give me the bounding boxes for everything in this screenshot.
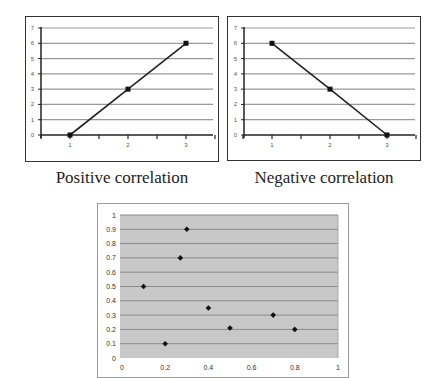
negative-ytick-label: 4	[234, 71, 238, 77]
positive-marker	[68, 133, 73, 138]
scatter-ytick-label: 1	[112, 212, 116, 219]
scatter-ytick-label: 0.9	[106, 226, 116, 233]
positive-ytick-label: 3	[31, 86, 35, 92]
scatter-xtick-label: 1	[336, 364, 340, 371]
scatter-ytick-label: 0.3	[106, 312, 116, 319]
scatter-ytick-label: 0	[112, 355, 116, 362]
positive-ytick-label: 0	[31, 132, 35, 138]
positive-xtick-label: 3	[184, 142, 188, 148]
positive-xtick-label: 1	[68, 142, 72, 148]
scatter-ytick-label: 0.6	[106, 269, 116, 276]
positive-marker	[184, 41, 189, 46]
scatter-ytick-label: 0.1	[106, 340, 116, 347]
negative-marker	[328, 87, 333, 92]
scatter-xtick-label: 0.2	[160, 364, 170, 371]
positive-ytick-label: 2	[31, 101, 35, 107]
negative-ytick-label: 7	[234, 25, 238, 31]
scatter-xtick-label: 0.8	[290, 364, 300, 371]
scatter-ytick-label: 0.4	[106, 297, 116, 304]
positive-ytick-label: 4	[31, 71, 35, 77]
scatter-xtick-label: 0.4	[204, 364, 214, 371]
negative-ytick-label: 6	[234, 40, 238, 46]
positive-xtick-label: 2	[126, 142, 130, 148]
scatter-ytick-label: 0.2	[106, 326, 116, 333]
positive-ytick-label: 1	[31, 117, 35, 123]
negative-xtick-label: 2	[328, 142, 332, 148]
scatter-xtick-label: 0	[120, 364, 124, 371]
positive-caption: Positive correlation	[25, 168, 219, 188]
negative-marker	[270, 41, 275, 46]
scatter-ytick-label: 0.7	[106, 254, 116, 261]
negative-xtick-label: 3	[385, 142, 389, 148]
negative-ytick-label: 5	[234, 56, 238, 62]
negative-xtick-label: 1	[270, 142, 274, 148]
scatter-xtick-label: 0.6	[247, 364, 257, 371]
positive-ytick-label: 6	[31, 40, 35, 46]
negative-ytick-label: 3	[234, 86, 238, 92]
positive-marker	[126, 87, 131, 92]
scatter-ytick-label: 0.5	[106, 283, 116, 290]
negative-caption: Negative correlation	[227, 168, 421, 188]
negative-ytick-label: 2	[234, 101, 238, 107]
positive-ytick-label: 7	[31, 25, 35, 31]
negative-ytick-label: 1	[234, 117, 238, 123]
positive-ytick-label: 5	[31, 56, 35, 62]
negative-marker	[385, 133, 390, 138]
negative-ytick-label: 0	[234, 132, 238, 138]
scatter-ytick-label: 0.8	[106, 240, 116, 247]
